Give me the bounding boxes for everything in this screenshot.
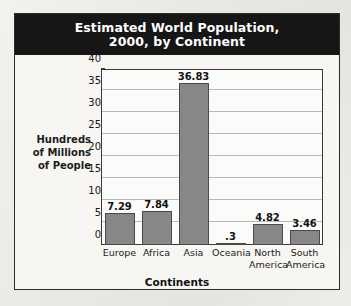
bar-value-label: .3 xyxy=(225,231,236,242)
bar-slot: 36.83 xyxy=(175,69,212,245)
y-axis: 0510152025303540 xyxy=(73,69,101,245)
bar[interactable] xyxy=(142,211,172,245)
y-tick-label: 40 xyxy=(79,54,101,64)
y-tick-label: 10 xyxy=(79,186,101,196)
chart-body: Hundreds of Millions of People 051015202… xyxy=(15,55,339,289)
bar-slot: 7.84 xyxy=(138,69,175,245)
chart-title-band: Estimated World Population, 2000, by Con… xyxy=(15,14,339,55)
y-tick-label: 25 xyxy=(79,120,101,130)
x-tick-label: Europe xyxy=(101,247,138,259)
chart-panel: Estimated World Population, 2000, by Con… xyxy=(14,13,340,290)
bar[interactable] xyxy=(253,224,283,245)
y-tick-label: 15 xyxy=(79,164,101,174)
y-tick-label: 5 xyxy=(79,208,101,218)
y-tick-label: 20 xyxy=(79,142,101,152)
y-tick-label: 30 xyxy=(79,98,101,108)
x-tick-label: Asia xyxy=(175,247,212,259)
bar-slot: 4.82 xyxy=(249,69,286,245)
y-tick-label: 35 xyxy=(79,76,101,86)
x-axis-title: Continents xyxy=(15,276,339,288)
bar-slot: 3.46 xyxy=(286,69,323,245)
bar-value-label: 7.29 xyxy=(107,201,132,212)
bar-series: 7.297.8436.83.34.823.46 xyxy=(101,69,323,245)
bar-value-label: 4.82 xyxy=(255,212,280,223)
y-tick-label: 0 xyxy=(79,230,101,240)
bar-slot: 7.29 xyxy=(101,69,138,245)
chart-title: Estimated World Population, 2000, by Con… xyxy=(75,21,280,49)
bar[interactable] xyxy=(179,83,209,245)
bar[interactable] xyxy=(290,230,320,245)
bar-slot: .3 xyxy=(212,69,249,245)
bar[interactable] xyxy=(105,213,135,245)
x-tick-label: Oceania xyxy=(212,247,249,259)
bar-value-label: 7.84 xyxy=(144,199,169,210)
x-axis-categories: EuropeAfricaAsiaOceaniaNorth AmericaSout… xyxy=(101,247,323,277)
x-tick-label: Africa xyxy=(138,247,175,259)
x-tick-label: North America xyxy=(249,247,286,270)
bar-value-label: 36.83 xyxy=(178,71,210,82)
x-tick-label: South America xyxy=(286,247,323,270)
bar-value-label: 3.46 xyxy=(292,218,317,229)
bar[interactable] xyxy=(216,243,246,245)
